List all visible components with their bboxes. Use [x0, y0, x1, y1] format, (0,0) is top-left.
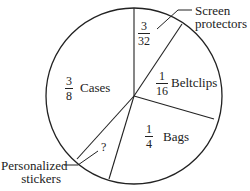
label-bags: Bags [163, 130, 189, 143]
divider-bags-stickers [109, 96, 134, 179]
fraction-cases: 3 8 [65, 75, 73, 102]
label-cases: Cases [80, 81, 110, 94]
divider-beltclips-bags [134, 96, 214, 119]
leader-stickers [64, 151, 98, 165]
fraction-bags: 1 4 [145, 123, 153, 150]
label-screen-protectors: Screen protectors [195, 4, 247, 30]
fraction-screen-protectors: 3 32 [138, 20, 150, 47]
fraction-beltclips: 1 16 [156, 70, 168, 97]
label-personalized-stickers: Personalized stickers [1, 159, 61, 185]
value-stickers-unknown: ? [101, 141, 106, 154]
label-beltclips: Beltclips [171, 76, 217, 89]
